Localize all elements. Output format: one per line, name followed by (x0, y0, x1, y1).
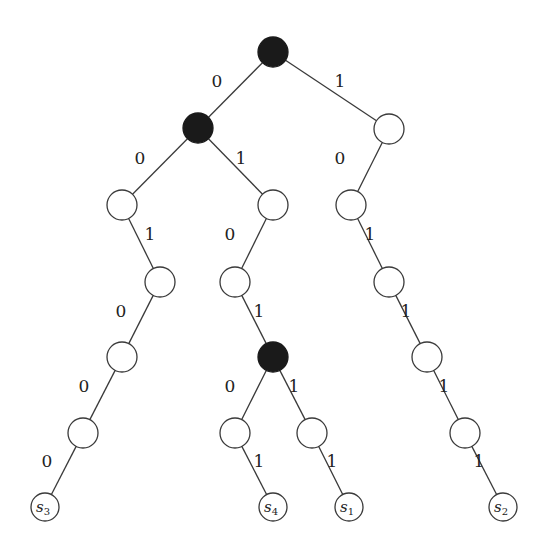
open-tree-node (297, 418, 327, 448)
open-tree-node (220, 418, 250, 448)
edge-bit-label: 0 (225, 224, 236, 244)
leaf-node-s1: s1 (335, 493, 363, 521)
edge-bit-label: 0 (116, 301, 127, 321)
filled-tree-node (183, 113, 213, 143)
edge-bit-label: 1 (236, 148, 247, 168)
tree-edge (242, 218, 267, 268)
open-tree-node (68, 418, 98, 448)
edge-bit-label: 0 (135, 148, 146, 168)
open-tree-node (107, 190, 137, 220)
edge-bit-label: 0 (225, 376, 236, 396)
binary-tree-diagram: 0101010101100110111 s3s4s1s2 (0, 0, 544, 554)
open-tree-node (145, 267, 175, 297)
open-tree-node (412, 342, 442, 372)
edge-bit-label: 1 (327, 451, 338, 471)
edge-bit-label: 1 (289, 376, 300, 396)
edge-bit-label: 1 (145, 224, 156, 244)
leaf-node-s3: s3 (31, 493, 59, 521)
filled-tree-node (258, 342, 288, 372)
open-tree-node (450, 418, 480, 448)
open-tree-node (220, 267, 250, 297)
leaf-node-s4: s4 (259, 493, 287, 521)
leaf-node-s2: s2 (489, 493, 517, 521)
edge-bit-label: 1 (254, 301, 265, 321)
open-tree-node (258, 190, 288, 220)
edge-bit-label: 1 (254, 451, 265, 471)
edge-bit-label: 0 (212, 71, 223, 91)
edge-labels-layer: 0101010101100110111 (42, 71, 485, 471)
edges-layer (51, 60, 496, 494)
tree-edge (90, 370, 115, 419)
tree-edge (51, 446, 76, 494)
open-tree-node (374, 114, 404, 144)
edge-bit-label: 0 (42, 451, 53, 471)
tree-edge (242, 370, 267, 419)
nodes-layer (68, 37, 480, 448)
open-tree-node (374, 267, 404, 297)
leaves-layer: s3s4s1s2 (31, 493, 517, 521)
tree-edge (129, 295, 153, 343)
open-tree-node (107, 342, 137, 372)
edge-bit-label: 1 (335, 71, 346, 91)
edge-bit-label: 1 (401, 301, 412, 321)
edge-bit-label: 0 (79, 376, 90, 396)
open-tree-node (336, 190, 366, 220)
filled-tree-node (258, 37, 288, 67)
edge-bit-label: 0 (335, 148, 346, 168)
edge-bit-label: 1 (474, 451, 485, 471)
tree-edge (285, 60, 376, 120)
edge-bit-label: 1 (439, 376, 450, 396)
edge-bit-label: 1 (365, 224, 376, 244)
tree-edge (358, 142, 383, 191)
